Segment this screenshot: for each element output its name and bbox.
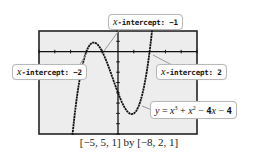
callout-x-intercept-2: x-intercept: 2	[156, 64, 227, 80]
graph-figure: x-intercept: −1 x-intercept: −2 x-interc…	[0, 0, 258, 160]
callout-x-intercept-neg2: x-intercept: −2	[12, 64, 87, 80]
callout-x-intercept-neg1: x-intercept: −1	[108, 14, 183, 30]
callout-equation: y = x3 + x2 − 4x − 4	[150, 101, 237, 119]
window-settings-caption: [−5, 5, 1] by [−8, 2, 1]	[0, 136, 258, 148]
